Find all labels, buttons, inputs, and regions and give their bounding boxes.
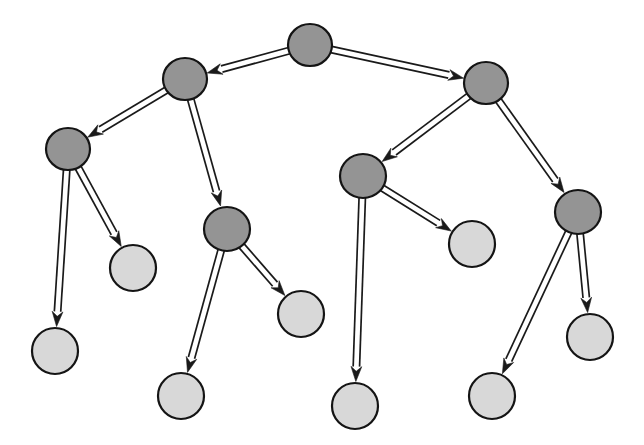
graph-node-leaf[interactable]: [158, 373, 204, 419]
graph-node-internal[interactable]: [340, 154, 386, 198]
graph-node-leaf[interactable]: [469, 373, 515, 419]
graph-node-internal[interactable]: [464, 62, 508, 104]
graph-node-leaf[interactable]: [567, 314, 613, 360]
graph-node-leaf[interactable]: [449, 221, 495, 267]
graph-node-leaf[interactable]: [110, 245, 156, 291]
graph-node-internal[interactable]: [46, 128, 90, 170]
graph-node-internal[interactable]: [288, 24, 332, 66]
graph-node-leaf[interactable]: [278, 291, 324, 337]
graph-node-internal[interactable]: [204, 207, 250, 251]
graph-node-internal[interactable]: [163, 58, 207, 100]
graph-node-leaf[interactable]: [32, 328, 78, 374]
graph-node-leaf[interactable]: [332, 383, 378, 429]
graph-node-internal[interactable]: [555, 190, 601, 234]
canvas-background: [0, 0, 644, 445]
graph-svg: [0, 0, 644, 445]
diagram-canvas: [0, 0, 644, 445]
